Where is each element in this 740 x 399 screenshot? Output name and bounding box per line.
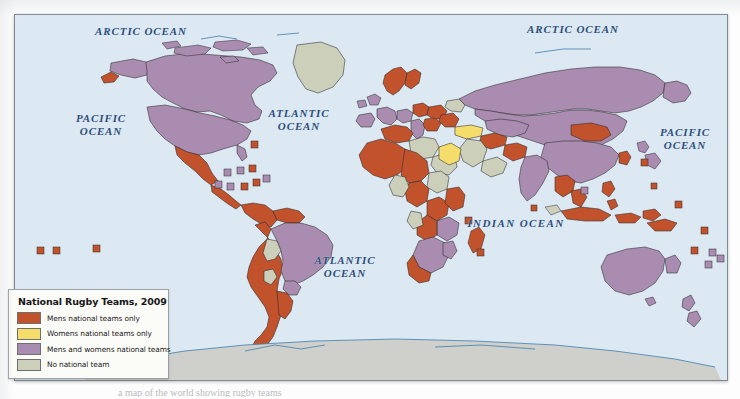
page-caption-cropped: a map of the world showing rugby teams: [118, 388, 638, 397]
caption-text: a map of the world showing rugby teams: [118, 388, 638, 397]
legend-swatch-mens-only: [17, 312, 41, 324]
legend-label-mens-and-womens: Mens and womens national teams: [47, 345, 171, 354]
map-legend: National Rugby Teams, 2009 Mens national…: [8, 289, 169, 379]
legend-item-no-team: No national team: [17, 359, 161, 371]
legend-swatch-womens-only: [17, 328, 41, 340]
legend-label-no-team: No national team: [47, 360, 109, 369]
legend-swatch-no-team: [17, 359, 41, 371]
legend-item-mens-only: Mens national teams only: [17, 312, 161, 324]
legend-label-womens-only: Womens national teams only: [47, 329, 152, 338]
legend-title: National Rugby Teams, 2009: [18, 296, 161, 307]
legend-item-womens-only: Womens national teams only: [17, 328, 161, 340]
legend-item-mens-and-womens: Mens and womens national teams: [17, 343, 161, 355]
legend-swatch-mens-and-womens: [17, 343, 41, 355]
scanned-page: .mw{fill:#a98cb0;} /* mens and womens */…: [0, 0, 740, 399]
legend-label-mens-only: Mens national teams only: [47, 314, 140, 323]
